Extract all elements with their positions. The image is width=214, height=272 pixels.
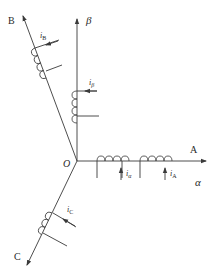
- i-alpha-label: iα: [126, 169, 132, 179]
- i-beta-label: iβ: [89, 78, 94, 88]
- b-axis-label: B: [8, 15, 15, 26]
- i-c-label: iC: [67, 205, 73, 215]
- beta-axis-label: β: [85, 14, 92, 26]
- a-axis-label: A: [190, 144, 198, 155]
- c-axis-label: C: [14, 251, 21, 262]
- c-winding-coil: [37, 211, 52, 235]
- b-winding-leads: [35, 40, 62, 71]
- b-winding-coil: [30, 48, 46, 80]
- c-winding-leads: [43, 213, 76, 246]
- three-phase-two-phase-winding-diagram: β A α B C O iα iA iβ: [0, 0, 214, 272]
- b-axis: [23, 16, 77, 161]
- alpha-axis-label: α: [195, 176, 201, 188]
- origin-label: O: [63, 158, 70, 169]
- i-a-label: iA: [170, 169, 177, 179]
- i-b-label: iB: [40, 31, 46, 41]
- a-winding-coil: [140, 156, 172, 180]
- beta-winding-coil: [72, 91, 99, 123]
- alpha-winding-coil: [97, 156, 129, 180]
